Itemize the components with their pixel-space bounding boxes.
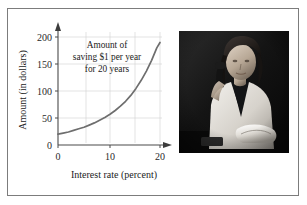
y-tick-label-0: 0 [47,140,52,151]
x-axis-title: Interest rate (percent) [71,169,157,181]
x-tick-label-20: 20 [155,151,165,162]
amount-vs-interest-rate-chart: 200 150 100 50 0 0 10 20 Amount of savin… [10,12,178,188]
x-tick-label-10: 10 [105,151,115,162]
chart-annotation: Amount of saving $1 per year for 20 year… [73,40,142,74]
photo-businesswoman-on-phone [179,31,289,153]
annotation-line-1: Amount of [87,40,128,50]
annotation-line-2: saving $1 per year [73,52,142,62]
y-tick-label-50: 50 [42,113,52,124]
figure-root: 200 150 100 50 0 0 10 20 Amount of savin… [0,0,307,205]
x-axis-arrow-icon [163,142,172,148]
chart-panel: 200 150 100 50 0 0 10 20 Amount of savin… [10,12,178,188]
x-tick-label-0: 0 [56,151,61,162]
y-tick-label-200: 200 [37,32,52,43]
photo-image [179,31,289,153]
photo-vignette [179,31,289,153]
y-tick-label-100: 100 [37,86,52,97]
annotation-line-3: for 20 years [85,64,130,74]
y-tick-label-150: 150 [37,59,52,70]
y-axis-arrow-icon [55,22,61,31]
y-axis-title: Amount (in dollars) [17,50,29,129]
